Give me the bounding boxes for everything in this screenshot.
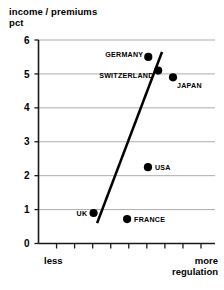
y-tick-label: 1: [24, 204, 30, 215]
point-label-germany: GERMANY: [105, 51, 143, 59]
data-point-japan: [169, 73, 177, 81]
point-label-france: FRANCE: [134, 216, 165, 224]
y-tick-label: 3: [24, 136, 30, 147]
data-point-switzerland: [154, 66, 162, 74]
point-label-japan: JAPAN: [177, 82, 202, 90]
data-point-uk: [89, 209, 97, 217]
point-label-usa: USA: [155, 164, 171, 172]
point-label-uk: UK: [77, 210, 88, 218]
y-tick-labels-group: 6543210: [24, 35, 30, 250]
scatter-chart: income / premiums pct 6543210 GERMANYSWI…: [0, 0, 224, 290]
y-tick-label: 4: [24, 102, 30, 113]
point-label-switzerland: SWITZERLAND: [99, 72, 153, 80]
data-point-germany: [144, 53, 152, 61]
data-point-usa: [144, 163, 152, 171]
x-axis-high-caption: more regulation: [172, 255, 218, 277]
y-tick-label: 6: [24, 35, 30, 46]
y-tick-label: 2: [24, 170, 30, 181]
data-point-france: [123, 215, 131, 223]
gridlines-group: [39, 40, 216, 210]
y-tick-label: 0: [24, 238, 30, 249]
y-tick-label: 5: [24, 69, 30, 80]
x-axis-high-caption-line-2: regulation: [172, 266, 218, 277]
x-axis-low-caption: less: [44, 255, 63, 266]
x-axis-high-caption-line-1: more: [172, 255, 218, 266]
plot-area: 6543210: [0, 0, 224, 290]
